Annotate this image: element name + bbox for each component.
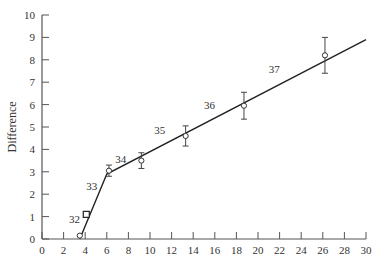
y-tick-label: 5: [30, 121, 36, 133]
x-tick-label: 20: [253, 244, 265, 256]
segment-label: 35: [154, 124, 166, 136]
x-tick-label: 22: [274, 244, 285, 256]
y-tick-label: 9: [30, 31, 36, 43]
x-tick-label: 16: [209, 244, 221, 256]
segment-labels: 323334353637: [69, 63, 280, 225]
x-tick-label: 6: [104, 244, 110, 256]
y-tick-label: 7: [30, 76, 36, 88]
x-tick-label: 14: [188, 244, 200, 256]
segment-label: 37: [269, 63, 281, 75]
y-tick-label: 1: [30, 211, 36, 223]
y-tick-label: 10: [24, 9, 36, 21]
x-tick-label: 8: [126, 244, 132, 256]
y-tick-label: 3: [30, 166, 36, 178]
x-tick-label: 4: [82, 244, 88, 256]
circle-marker: [139, 158, 144, 163]
x-tick-label: 0: [39, 244, 45, 256]
segment-label: 34: [115, 153, 127, 165]
circle-marker: [77, 233, 82, 238]
y-tick-label: 4: [30, 143, 36, 155]
x-tick-label: 28: [339, 244, 351, 256]
x-tick-label: 24: [296, 244, 308, 256]
y-tick-label: 2: [30, 188, 36, 200]
x-tick-label: 2: [61, 244, 67, 256]
y-tick-label: 6: [30, 99, 36, 111]
data-points: [77, 37, 328, 238]
x-tick-label: 30: [361, 244, 373, 256]
circle-marker: [241, 103, 246, 108]
segment-label: 32: [69, 213, 80, 225]
fit-polyline: [80, 40, 366, 239]
circle-marker: [106, 168, 111, 173]
circle-marker: [322, 53, 327, 58]
y-axis-label: Difference: [5, 101, 19, 152]
square-marker: [83, 211, 89, 217]
x-tick-label: 18: [231, 244, 243, 256]
y-tick-label: 8: [30, 54, 36, 66]
y-tick-label: 0: [30, 233, 36, 245]
chart: 024681012141618202224262830012345678910 …: [0, 0, 380, 265]
y-axis-title: Difference: [5, 101, 19, 152]
circle-marker: [183, 133, 188, 138]
segment-label: 36: [204, 99, 216, 111]
x-tick-label: 10: [145, 244, 157, 256]
fit-line: [80, 40, 366, 239]
segment-label: 33: [86, 180, 98, 192]
x-tick-label: 26: [317, 244, 329, 256]
x-tick-label: 12: [166, 244, 177, 256]
